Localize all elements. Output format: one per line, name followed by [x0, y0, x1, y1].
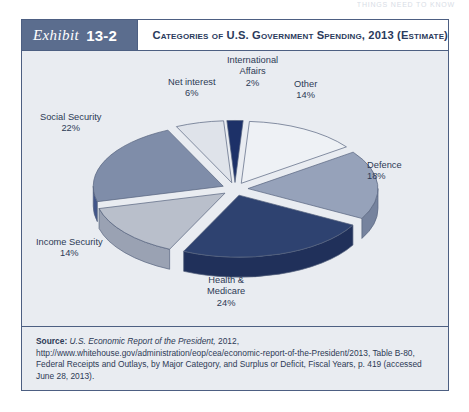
exhibit-label: Exhibit [33, 27, 79, 44]
pie-label-health-medicare: Health & Medicare 24% [207, 275, 245, 309]
pie-label-social-security: Social Security 22% [40, 112, 102, 135]
exhibit-tag: Exhibit 13-2 [22, 20, 138, 50]
pie-label-international-affairs-value: 2% [227, 78, 278, 89]
pie-label-income-security-value: 14% [36, 248, 103, 259]
pie-label-health-medicare-name1: Health & [207, 275, 245, 286]
pie-label-health-medicare-name2: Medicare [207, 286, 245, 297]
source-block: Source: U.S. Economic Report of the Pres… [22, 326, 448, 390]
source-lead: Source: [36, 336, 67, 346]
pie-label-other: Other 14% [294, 79, 317, 102]
pie-label-international-affairs-name2: Affairs [227, 66, 278, 77]
pie-label-net-interest-value: 6% [168, 88, 216, 99]
exhibit-title: Categories of U.S. Government Spending, … [138, 20, 448, 50]
pie-label-health-medicare-value: 24% [207, 298, 245, 309]
pie-label-net-interest-name: Net interest [168, 77, 216, 88]
pie-label-income-security-name: Income Security [36, 237, 103, 248]
source-text: Source: U.S. Economic Report of the Pres… [36, 336, 434, 382]
pie-label-net-interest: Net interest 6% [168, 77, 216, 100]
pie-label-income-security: Income Security 14% [36, 237, 103, 260]
exhibit-box: Exhibit 13-2 Categories of U.S. Governme… [21, 19, 449, 391]
exhibit-number: 13-2 [86, 27, 117, 44]
pie-label-social-security-name: Social Security [40, 112, 102, 123]
pie-label-international-affairs: International Affairs 2% [227, 55, 278, 89]
pie-label-defence: Defence 18% [367, 160, 402, 183]
pie-label-defence-name: Defence [367, 160, 402, 171]
pie-label-social-security-value: 22% [40, 123, 102, 134]
pie-label-defence-value: 18% [367, 171, 402, 182]
pie-label-other-name: Other [294, 79, 317, 90]
pie-label-other-value: 14% [294, 90, 317, 101]
exhibit-title-bar: Exhibit 13-2 Categories of U.S. Governme… [22, 20, 448, 50]
pie-chart-area: Net interest 6% International Affairs 2%… [22, 50, 448, 327]
source-citation-title: U.S. Economic Report of the President, [70, 336, 216, 346]
running-header: THINGS NEED TO KNOW [357, 1, 455, 10]
pie-label-international-affairs-name1: International [227, 55, 278, 66]
